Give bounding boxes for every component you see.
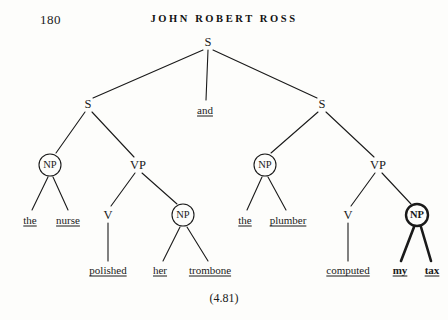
tree-branch	[268, 177, 286, 210]
tree-branch	[142, 173, 177, 204]
tree-leaf-leaf-plumber: plumber	[270, 215, 307, 226]
tree-leaf-leaf-computed: computed	[326, 265, 369, 276]
tree-node-s-left: S	[85, 98, 92, 111]
tree-branch	[247, 177, 262, 210]
tree-node-v-2: V	[343, 209, 352, 222]
tree-node-np-3: NP	[258, 160, 271, 171]
tree-branch	[111, 173, 135, 206]
tree-branch	[93, 50, 203, 98]
tree-leaf-leaf-nurse: nurse	[56, 215, 80, 226]
tree-leaf-leaf-tax: tax	[425, 265, 440, 276]
tree-branch	[206, 50, 208, 100]
tree-branch	[163, 227, 180, 261]
tree-edge-layer	[32, 50, 431, 261]
tree-node-np-1: NP	[43, 160, 56, 171]
tree-node-v-1: V	[103, 209, 112, 222]
tree-branch	[326, 112, 374, 157]
tree-leaf-leaf-trombone: trombone	[189, 265, 231, 276]
tree-node-s-right: S	[319, 98, 326, 111]
tree-branch	[351, 173, 375, 206]
tree-branch	[56, 112, 85, 153]
tree-branch	[187, 227, 208, 261]
tree-leaf-leaf-and: and	[197, 105, 213, 116]
book-page: 180 JOHN ROBERT ROSS SSSNPVPVNPNPVPVNP t…	[0, 0, 448, 320]
tree-node-s-root: S	[205, 36, 212, 49]
example-number: (4.81)	[210, 291, 239, 306]
tree-node-np-4: NP	[410, 210, 424, 221]
tree-branch	[421, 227, 431, 261]
tree-branch	[53, 177, 68, 210]
tree-branch	[382, 173, 411, 204]
tree-leaf-leaf-the-2: the	[238, 215, 251, 226]
tree-branch	[92, 112, 134, 157]
tree-branch	[32, 177, 48, 210]
tree-leaf-leaf-the-1: the	[23, 215, 36, 226]
tree-branch	[213, 50, 317, 98]
tree-leaf-leaf-my: my	[393, 265, 408, 276]
tree-node-np-2: NP	[176, 210, 189, 221]
tree-leaf-leaf-polished: polished	[89, 265, 126, 276]
tree-node-vp-2: VP	[370, 159, 386, 172]
tree-node-vp-1: VP	[130, 159, 146, 172]
tree-branch	[401, 227, 414, 261]
tree-leaf-leaf-her: her	[153, 265, 167, 276]
tree-branch	[271, 112, 318, 153]
